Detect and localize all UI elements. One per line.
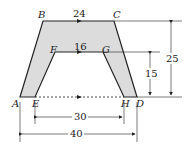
point-label-B: B — [37, 9, 45, 20]
point-label-C: C — [113, 9, 121, 20]
dim-label-24: 24 — [73, 8, 86, 19]
dim-label-25: 25 — [166, 53, 179, 64]
point-label-E: E — [31, 98, 40, 109]
dim-label-40: 40 — [70, 128, 83, 139]
trapezoid-channel-diagram: B C A D E H F G 24 16 25 15 30 40 — [0, 0, 194, 149]
point-label-G: G — [102, 44, 110, 55]
diagram-canvas: B C A D E H F G 24 16 25 15 30 40 — [0, 0, 194, 149]
point-label-F: F — [49, 44, 58, 55]
dim-label-15: 15 — [145, 68, 158, 79]
point-label-A: A — [11, 98, 19, 109]
shaded-region — [20, 21, 137, 97]
dim-label-16: 16 — [74, 41, 87, 52]
point-label-D: D — [135, 98, 144, 109]
point-label-H: H — [120, 98, 130, 109]
arrow-EH — [77, 95, 82, 99]
dim-label-30: 30 — [74, 111, 87, 122]
